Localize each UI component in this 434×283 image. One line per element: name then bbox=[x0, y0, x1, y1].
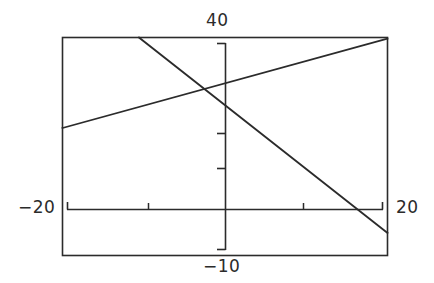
y-axis-min-label: −10 bbox=[203, 258, 240, 275]
x-axis-min-label: −20 bbox=[18, 199, 55, 216]
plot-figure: 40 −20 20 −10 bbox=[0, 0, 434, 283]
y-axis-max-label: 40 bbox=[206, 12, 229, 29]
plot-canvas bbox=[0, 0, 434, 283]
x-axis-max-label: 20 bbox=[396, 199, 419, 216]
